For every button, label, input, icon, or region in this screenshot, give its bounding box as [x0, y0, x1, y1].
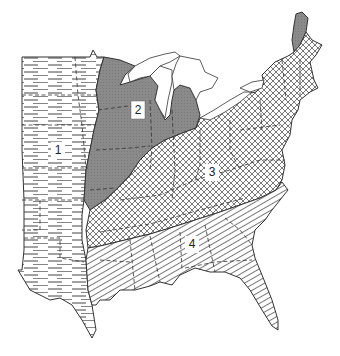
svg-text:4: 4: [189, 237, 196, 251]
svg-text:2: 2: [135, 103, 142, 117]
svg-text:1: 1: [55, 143, 62, 157]
svg-text:3: 3: [209, 165, 216, 179]
region-map: 1 2 3 4: [0, 0, 340, 356]
region-label-1: 1: [51, 142, 65, 158]
region-label-2: 2: [131, 101, 145, 119]
region-label-3: 3: [205, 164, 219, 181]
region-label-4: 4: [185, 236, 199, 253]
